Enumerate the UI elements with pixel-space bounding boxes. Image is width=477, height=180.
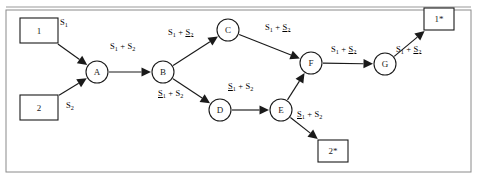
arrowhead-B-D [200, 94, 210, 103]
node-label-B: B [160, 67, 166, 77]
arrowhead-src1-A [77, 56, 87, 65]
edge-label-F-G: S1 + S2 [331, 45, 356, 54]
edge-A-B [109, 67, 151, 76]
edge-src1-A [58, 44, 87, 65]
source-box-label-src1: 1 [37, 26, 42, 36]
node-C: C [217, 19, 239, 41]
arrowhead-E-F [296, 73, 305, 83]
edge-src2-A [59, 78, 87, 95]
node-label-D: D [217, 105, 224, 115]
source-box-src1: 1 [20, 18, 58, 43]
source-box-src2: 2 [20, 95, 58, 120]
edge-B-C [173, 37, 218, 66]
edge-label-B-D: S1 + S2 [158, 89, 183, 98]
edge-label-E-dst2: S1 + S2 [297, 110, 322, 119]
edge-label-D-E: S1 + S2 [228, 82, 253, 91]
node-label-C: C [225, 25, 231, 35]
source-box-label-src2: 2 [37, 103, 42, 113]
arrowhead-G-dst1 [414, 31, 424, 41]
node-label-G: G [382, 59, 389, 69]
edge-D-E [232, 105, 269, 114]
edge-label-C-F: S1 + S2 [265, 23, 290, 32]
sink-box-dst1: 1* [424, 8, 454, 30]
arrowhead-D-E [260, 105, 270, 114]
node-label-A: A [94, 67, 101, 77]
sink-box-label-dst2: 2* [329, 146, 339, 156]
sink-box-label-dst1: 1* [435, 14, 445, 24]
arrowhead-F-G [363, 59, 373, 68]
network-flow-diagram: 121*2*ABCDEFG S1S2S1 + S2S1 + S2S1 + S2S… [0, 0, 477, 180]
node-F: F [300, 52, 322, 74]
edge-F-G [323, 59, 373, 68]
arrowhead-A-B [142, 67, 152, 76]
edge-label-src2-A: S2 [66, 101, 74, 110]
arrowhead-B-C [207, 37, 217, 46]
edge-E-dst2 [290, 117, 317, 139]
sink-box-dst2: 2* [318, 140, 348, 162]
edge-label-A-B: S1 + S2 [110, 42, 135, 51]
node-E: E [270, 99, 292, 121]
node-D: D [209, 99, 231, 121]
arrowhead-E-dst2 [307, 130, 317, 139]
edge-label-src1-A: S1 [60, 18, 68, 27]
node-label-F: F [308, 58, 313, 68]
edge-label-B-C: S1 + S2 [168, 28, 193, 37]
node-B: B [152, 61, 174, 83]
node-label-E: E [278, 105, 284, 115]
node-G: G [374, 53, 396, 75]
edge-label-G-dst1: S1 + S2 [396, 45, 421, 54]
node-A: A [86, 61, 108, 83]
arrowhead-src2-A [76, 78, 87, 87]
edge-C-F [239, 34, 300, 59]
edge-E-F [287, 73, 304, 100]
